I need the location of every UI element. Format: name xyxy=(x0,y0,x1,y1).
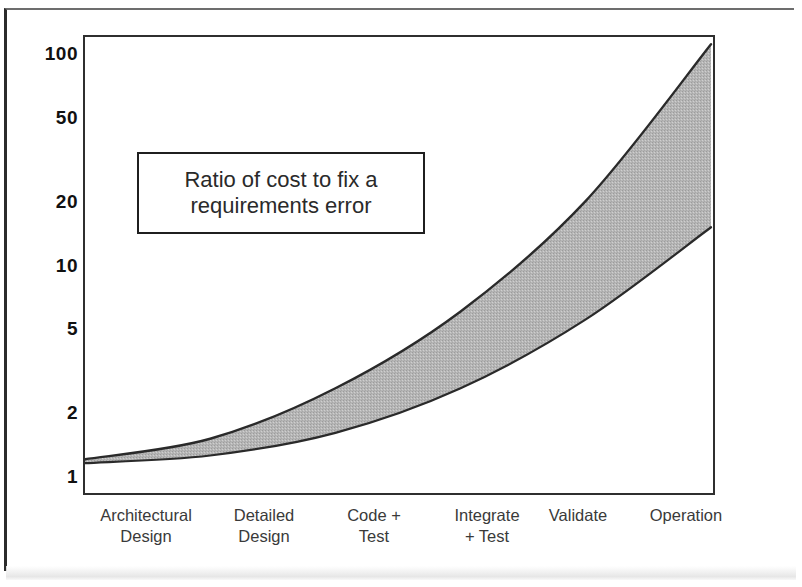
plot-area xyxy=(83,35,715,495)
x-axis: Architectural DesignDetailed DesignCode … xyxy=(83,505,783,565)
x-tick-label-0: Architectural Design xyxy=(76,505,216,546)
cost-to-fix-band-chart xyxy=(85,37,713,493)
x-tick-label-4: Validate xyxy=(528,505,628,526)
annotation-text: Ratio of cost to fix a requirements erro… xyxy=(139,167,423,219)
y-tick-label-50: 50 xyxy=(6,108,78,127)
y-tick-label-100: 100 xyxy=(6,44,78,63)
x-tick-label-2: Code + Test xyxy=(319,505,429,546)
y-axis: 100502010521 xyxy=(0,0,78,587)
y-tick-label-5: 5 xyxy=(6,319,78,338)
annotation-box: Ratio of cost to fix a requirements erro… xyxy=(137,152,425,234)
figure-root: 100502010521 Architectural DesignDetaile… xyxy=(0,0,802,587)
x-tick-label-1: Detailed Design xyxy=(204,505,324,546)
x-tick-label-5: Operation xyxy=(621,505,751,526)
y-tick-label-20: 20 xyxy=(6,192,78,211)
y-tick-label-1: 1 xyxy=(6,467,78,486)
scan-artifact-band xyxy=(6,566,796,580)
y-tick-label-2: 2 xyxy=(6,403,78,422)
y-tick-label-10: 10 xyxy=(6,256,78,275)
cost-band-fill xyxy=(85,44,711,463)
